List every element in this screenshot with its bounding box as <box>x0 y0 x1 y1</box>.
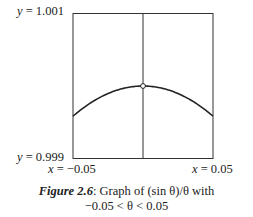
open-circle-marker <box>141 84 146 89</box>
figure-number: Figure 2.6 <box>39 184 93 198</box>
figure-caption: Figure 2.6: Graph of (sin θ)/θ with −0.0… <box>0 184 253 214</box>
y-max-label: y = 1.001 <box>17 4 64 19</box>
x-min-label: x = −0.05 <box>48 162 96 177</box>
x-max-label: x = 0.05 <box>192 162 233 177</box>
